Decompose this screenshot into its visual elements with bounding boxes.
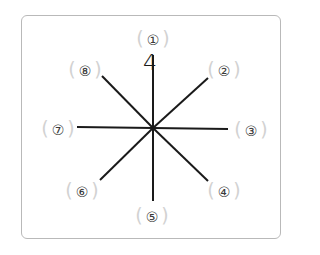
direction-number-2: ② [218,64,231,78]
handwritten-answer: 4 [143,52,157,74]
paren-right: ) [91,179,98,201]
paren-left: ( [234,118,241,140]
line-northeast [153,78,208,128]
paren-left: ( [207,58,214,80]
paren-right: ) [233,179,240,201]
paren-left: ( [68,58,75,80]
label-1: (①) [136,29,169,48]
paren-right: ) [67,117,74,139]
direction-number-5: ⑤ [146,210,159,224]
label-8: (⑧) [68,60,101,79]
direction-number-6: ⑥ [76,185,89,199]
label-3: (③) [234,120,267,139]
paren-right: ) [233,58,240,80]
line-northwest [102,76,153,128]
paren-left: ( [65,179,72,201]
direction-number-1: ① [147,33,160,47]
direction-number-8: ⑧ [79,64,92,78]
paren-left: ( [207,179,214,201]
paren-right: ) [161,204,168,226]
label-2: (②) [207,60,240,79]
paren-left: ( [41,117,48,139]
line-west [77,127,153,128]
paren-left: ( [135,204,142,226]
direction-number-7: ⑦ [52,123,65,137]
paren-right: ) [260,118,267,140]
line-southwest [100,128,153,180]
label-6: (⑥) [65,181,98,200]
line-east [153,128,228,129]
label-5: (⑤) [135,206,168,225]
direction-number-3: ③ [245,124,258,138]
line-southeast [153,128,208,181]
label-7: (⑦) [41,119,74,138]
paren-right: ) [94,58,101,80]
label-4: (④) [207,181,240,200]
paren-right: ) [162,27,169,49]
paren-left: ( [136,27,143,49]
direction-number-4: ④ [218,185,231,199]
